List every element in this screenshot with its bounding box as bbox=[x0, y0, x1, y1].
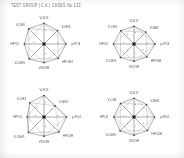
radar-axis-label: V-C6H5 bbox=[105, 133, 116, 137]
radar-edge-value: 2 bbox=[35, 114, 37, 116]
radar-spoke bbox=[44, 106, 55, 117]
radar-edge-value: 3 bbox=[142, 48, 144, 50]
radar-hub bbox=[133, 116, 136, 119]
radar-axis-label: V-CH3 bbox=[17, 97, 26, 101]
panel-top-right: V-SO23V-NH24p-PO45HPO4H3VSO3H4V-C6H52HPO… bbox=[88, 10, 180, 82]
radar-axis-label: VSO3H bbox=[129, 65, 139, 69]
radar-node bbox=[28, 28, 30, 30]
page-caption: TEST GROUP (C.A.) CASES No 133 bbox=[11, 3, 81, 8]
radar-axis-label: V-SO2 bbox=[129, 91, 138, 95]
radar-edge-value: 5 bbox=[147, 41, 149, 43]
radar-hub bbox=[43, 43, 46, 46]
radar-node bbox=[120, 103, 122, 105]
radar-spoke bbox=[44, 30, 58, 44]
radar-panel-bottom-left: V-SO25V-NH22p-PO46HPO4H4VSO3H3V-C6H54HPO… bbox=[0, 83, 90, 155]
radar-node bbox=[119, 130, 121, 132]
radar-node bbox=[57, 30, 59, 32]
radar-edge-value: 4 bbox=[135, 51, 137, 53]
radar-axis-label: p-PO4 bbox=[72, 42, 81, 46]
radar-node bbox=[133, 61, 135, 63]
radar-node bbox=[65, 43, 67, 45]
radar-axis-label: V-NH2 bbox=[59, 100, 68, 104]
radar-edge-value: 6 bbox=[58, 114, 60, 116]
radar-edge-value: 5 bbox=[45, 101, 47, 103]
radar-axis-label: V-CH3 bbox=[108, 98, 117, 102]
radar-axis-label: V-SO2 bbox=[39, 16, 48, 20]
radar-axis-label: HPO4 bbox=[13, 115, 22, 119]
radar-hub bbox=[43, 116, 46, 119]
radar-panel-top-left: V-SO24V-NH23p-PO46HPO4H2VSO3H5V-C6H52HPO… bbox=[0, 10, 90, 82]
radar-node bbox=[58, 131, 60, 133]
radar-edge-value: 6 bbox=[123, 41, 125, 43]
radar-edge-value: 4 bbox=[36, 32, 38, 34]
radar-node bbox=[29, 102, 31, 104]
radar-node bbox=[26, 116, 28, 118]
radar-axis-label: HPO4H bbox=[151, 132, 161, 136]
radar-edge-value: 5 bbox=[36, 106, 38, 108]
radar-node bbox=[146, 56, 148, 58]
radar-chord bbox=[147, 104, 148, 130]
radar-node bbox=[145, 31, 147, 33]
radar-axis-label: HPO4 bbox=[11, 42, 20, 46]
radar-node bbox=[28, 58, 30, 60]
radar-chord bbox=[29, 29, 58, 31]
radar-node bbox=[146, 104, 148, 106]
radar-node bbox=[43, 135, 45, 137]
radar-panel-top-right: V-SO23V-NH24p-PO45HPO4H3VSO3H4V-C6H52HPO… bbox=[88, 10, 180, 82]
panel-bottom-right: V-SO23V-NH23p-PO45HPO4H3VSO3H4V-C6H53HPO… bbox=[88, 83, 180, 155]
radar-edge-value: 3 bbox=[143, 122, 145, 124]
radar-axis-label: p-PO4 bbox=[72, 115, 81, 119]
radar-node bbox=[43, 23, 45, 25]
radar-axis-label: p-PO4 bbox=[161, 42, 170, 46]
radar-axis-label: VSO3H bbox=[39, 66, 49, 70]
radar-axis-label: HPO4 bbox=[100, 115, 109, 119]
radar-edge-value: 5 bbox=[123, 114, 125, 116]
radar-axis-label: VSO3H bbox=[39, 140, 49, 144]
radar-edge-value: 2 bbox=[53, 49, 55, 51]
radar-axis-label: V-C6H5 bbox=[14, 135, 25, 139]
radar-axis-label: V-CH3 bbox=[108, 25, 117, 29]
radar-chord bbox=[146, 32, 147, 57]
radar-hub bbox=[133, 43, 136, 46]
radar-node bbox=[133, 134, 135, 136]
radar-spoke bbox=[44, 44, 58, 58]
radar-axis-label: V-CH3 bbox=[16, 23, 25, 27]
radar-node bbox=[66, 116, 68, 118]
radar-chord bbox=[28, 132, 59, 133]
radar-edge-value: 4 bbox=[127, 106, 129, 108]
radar-panel-bottom-right: V-SO23V-NH23p-PO45HPO4H3VSO3H4V-C6H53HPO… bbox=[88, 83, 180, 155]
radar-chord bbox=[30, 103, 55, 106]
radar-node bbox=[43, 95, 45, 97]
radar-axis-label: HPO4H bbox=[63, 134, 73, 138]
panel-bottom-left: V-SO25V-NH22p-PO46HPO4H4VSO3H3V-C6H54HPO… bbox=[0, 83, 90, 155]
radar-chord bbox=[120, 103, 146, 104]
radar-axis-label: HPO4 bbox=[100, 42, 109, 46]
radar-edge-value: 3 bbox=[45, 125, 47, 127]
radar-edge-value: 4 bbox=[135, 125, 137, 127]
radar-chord bbox=[120, 57, 146, 58]
radar-node bbox=[120, 57, 122, 59]
radar-node bbox=[28, 132, 30, 134]
radar-node bbox=[133, 25, 135, 27]
radar-node bbox=[133, 98, 135, 100]
radar-node bbox=[120, 30, 122, 32]
radar-edge-value: 4 bbox=[45, 29, 47, 31]
radar-chord bbox=[121, 31, 146, 32]
radar-node bbox=[154, 116, 156, 118]
radar-axis-label: V-NH2 bbox=[150, 26, 159, 30]
radar-edge-value: 5 bbox=[147, 114, 149, 116]
panel-top-left: V-SO24V-NH23p-PO46HPO4H2VSO3H5V-C6H52HPO… bbox=[0, 10, 90, 82]
radar-edge-value: 3 bbox=[127, 33, 129, 35]
radar-node bbox=[54, 105, 56, 107]
radar-axis-label: VSO3H bbox=[129, 139, 139, 143]
radar-node bbox=[113, 116, 115, 118]
radar-axis-label: HPO4H bbox=[151, 59, 161, 63]
radar-spoke bbox=[29, 29, 44, 44]
scanned-page: TEST GROUP (C.A.) CASES No 133 V-SO24V-N… bbox=[0, 0, 184, 158]
radar-node bbox=[24, 43, 26, 45]
radar-axis-label: V-SO2 bbox=[39, 88, 48, 92]
radar-node bbox=[58, 58, 60, 60]
radar-chord bbox=[27, 117, 44, 136]
radar-chord bbox=[29, 58, 58, 59]
radar-node bbox=[43, 62, 45, 64]
